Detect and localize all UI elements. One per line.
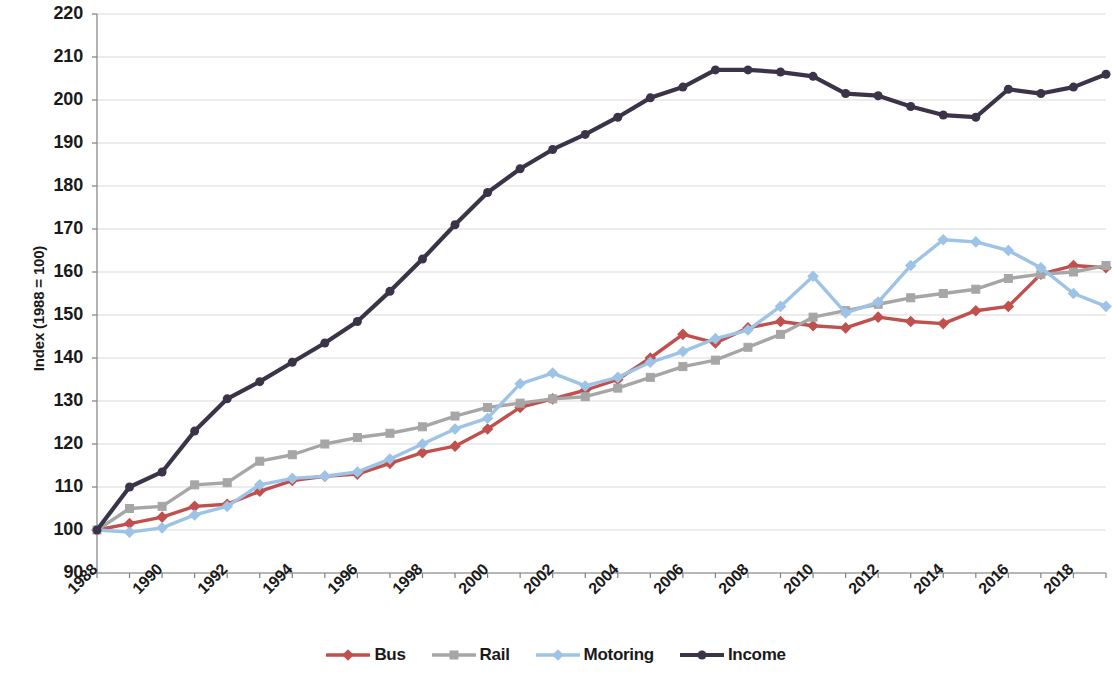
data-point-income [125,483,134,492]
data-point-income [711,65,720,74]
y-tick-label: 110 [27,476,83,497]
data-point-rail [451,412,459,420]
line-chart: 2202102001901801701601501401301201101009… [0,0,1112,674]
data-point-rail [549,395,557,403]
legend-label: Bus [374,645,405,665]
data-point-income [158,467,167,476]
legend-swatch-bus [326,648,370,662]
data-point-bus [872,311,884,323]
data-point-rail [321,440,329,448]
data-point-income [353,317,362,326]
data-point-income [223,394,232,403]
data-point-rail [614,384,622,392]
data-point-motoring [189,509,201,521]
data-point-rail [679,363,687,371]
legend-item-bus[interactable]: Bus [326,645,405,665]
data-point-bus [156,511,168,523]
data-point-income [548,145,557,154]
legend-marker [343,649,355,661]
data-point-income [841,89,850,98]
series-line-rail [97,266,1106,530]
y-tick-label: 210 [27,46,83,67]
data-point-income [613,113,622,122]
data-point-income [1036,89,1045,98]
data-point-income [255,377,264,386]
series-line-bus [97,266,1106,530]
legend-item-motoring[interactable]: Motoring [536,645,654,665]
data-point-rail [418,423,426,431]
data-point-rail [1102,262,1110,270]
legend-swatch-motoring [536,648,580,662]
series-income [93,65,1111,534]
data-point-income [1102,70,1111,79]
data-point-rail [907,294,915,302]
data-point-income [418,255,427,264]
data-point-rail [1004,274,1012,282]
data-point-rail [777,330,785,338]
data-point-rail [939,290,947,298]
data-point-motoring [1100,301,1112,313]
legend-swatch-rail [432,648,476,662]
data-point-rail [484,403,492,411]
data-point-motoring [547,367,559,379]
legend-label: Motoring [584,645,654,665]
data-point-income [743,65,752,74]
y-axis-title: Index (1988 = 100) [30,209,47,409]
series-lines [91,65,1112,538]
data-point-rail [581,393,589,401]
data-point-rail [256,457,264,465]
data-point-income [483,188,492,197]
y-tick-label: 190 [27,132,83,153]
data-point-income [93,526,102,535]
legend-swatch-income [680,648,724,662]
data-point-income [646,93,655,102]
data-point-income [874,91,883,100]
data-point-bus [807,320,819,332]
data-point-rail [288,451,296,459]
legend-marker [552,649,564,661]
data-point-rail [158,502,166,510]
y-tick-label: 200 [27,89,83,110]
data-point-rail [223,479,231,487]
legend-item-income[interactable]: Income [680,645,786,665]
data-point-income [776,68,785,77]
data-point-income [288,358,297,367]
data-point-motoring [124,526,136,538]
data-point-income [581,130,590,139]
y-tick-label: 220 [27,3,83,24]
data-point-income [906,102,915,111]
data-point-income [971,113,980,122]
data-point-rail [646,373,654,381]
data-point-motoring [449,423,461,435]
legend-marker [697,651,706,660]
series-line-income [97,70,1106,530]
legend-label: Rail [480,645,510,665]
data-point-rail [516,399,524,407]
data-point-motoring [677,346,689,358]
data-point-rail [972,285,980,293]
y-tick-label: 100 [27,519,83,540]
data-point-income [320,338,329,347]
data-point-bus [775,316,787,328]
data-point-rail [353,434,361,442]
data-point-income [451,220,460,229]
data-point-rail [809,313,817,321]
data-point-income [678,83,687,92]
y-tick-label: 180 [27,175,83,196]
data-point-motoring [417,438,429,450]
data-point-rail [711,356,719,364]
data-point-income [1004,85,1013,94]
chart-legend: BusRailMotoringIncome [0,645,1112,665]
data-point-motoring [319,470,331,482]
data-point-income [190,427,199,436]
data-point-income [1069,83,1078,92]
data-point-motoring [156,522,168,534]
legend-marker [450,651,458,659]
y-tick-label: 120 [27,433,83,454]
data-point-rail [1069,268,1077,276]
legend-item-rail[interactable]: Rail [432,645,510,665]
data-point-bus [937,318,949,330]
data-point-motoring [970,236,982,248]
data-point-rail [744,343,752,351]
legend-label: Income [728,645,786,665]
